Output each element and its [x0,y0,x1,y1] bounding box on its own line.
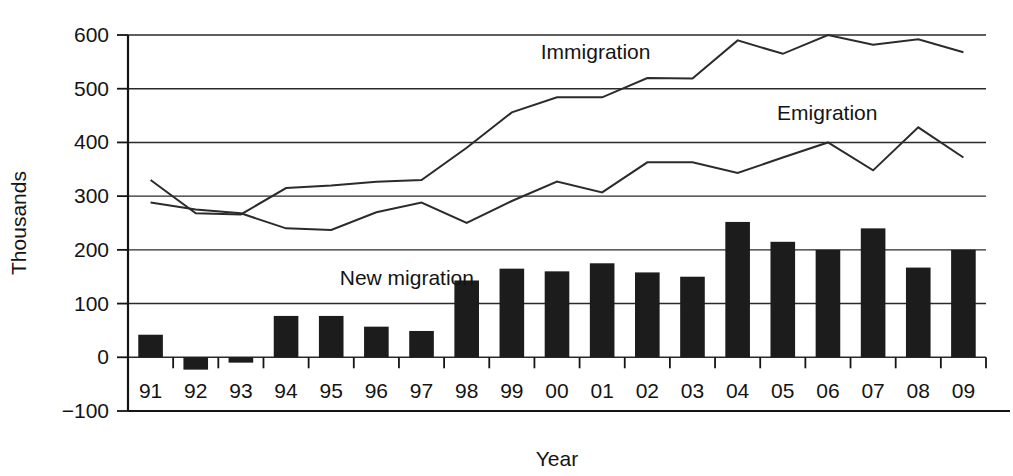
migration-chart: −1000100200300400500600 9192939495969798… [0,0,1013,476]
bar-99 [500,269,525,358]
x-tick-label-92: 92 [184,379,207,402]
x-tick-label-98: 98 [455,379,478,402]
y-axis-title: Thousands [7,171,30,275]
y-axis-tick-marks [117,35,128,411]
bar-09 [951,250,976,357]
y-tick-label-0: 0 [97,345,109,368]
bar-00 [545,271,570,357]
x-tick-label-02: 02 [636,379,659,402]
x-tick-label-97: 97 [410,379,433,402]
x-tick-label-07: 07 [861,379,884,402]
immigration-label: Immigration [541,40,651,63]
chart-canvas: −1000100200300400500600 9192939495969798… [0,0,1013,476]
bar-91 [138,335,163,358]
x-axis-tick-labels: 91929394959697989900010203040506070809 [139,379,975,402]
x-tick-label-93: 93 [229,379,252,402]
x-axis-tick-marks [128,357,986,368]
x-tick-label-08: 08 [907,379,930,402]
bars-group [138,222,975,370]
bar-96 [364,327,389,358]
x-tick-label-09: 09 [952,379,975,402]
y-axis-tick-labels: −1000100200300400500600 [62,23,109,422]
y-tick-label-400: 400 [74,130,109,153]
bar-95 [319,316,344,357]
x-tick-label-91: 91 [139,379,162,402]
x-tick-label-04: 04 [726,379,750,402]
bar-02 [635,272,660,357]
bar-08 [906,268,931,358]
bar-01 [590,263,615,357]
x-tick-label-03: 03 [681,379,704,402]
x-tick-label-00: 00 [545,379,568,402]
emigration-label: Emigration [777,101,877,124]
x-tick-label-99: 99 [500,379,523,402]
bar-97 [409,331,434,357]
y-tick-label-300: 300 [74,184,109,207]
y-tick-label--100: −100 [62,399,109,422]
x-tick-label-95: 95 [320,379,343,402]
x-tick-label-01: 01 [590,379,613,402]
bar-98 [454,280,479,357]
y-tick-label-600: 600 [74,23,109,46]
y-tick-label-200: 200 [74,238,109,261]
series-annotations: ImmigrationEmigrationNew migration [340,40,878,289]
x-axis-title: Year [536,447,578,470]
bar-04 [725,222,750,357]
x-tick-label-96: 96 [365,379,388,402]
bar-05 [770,242,795,357]
bar-93 [229,357,254,362]
new-migration-label: New migration [340,266,474,289]
bar-03 [680,277,705,358]
bar-07 [861,228,886,357]
x-tick-label-94: 94 [274,379,298,402]
bar-94 [274,316,299,357]
x-tick-label-06: 06 [816,379,839,402]
bar-06 [816,250,841,357]
bar-92 [183,357,208,369]
y-tick-label-100: 100 [74,292,109,315]
y-tick-label-500: 500 [74,77,109,100]
x-tick-label-05: 05 [771,379,794,402]
series-lines-group [151,35,964,230]
